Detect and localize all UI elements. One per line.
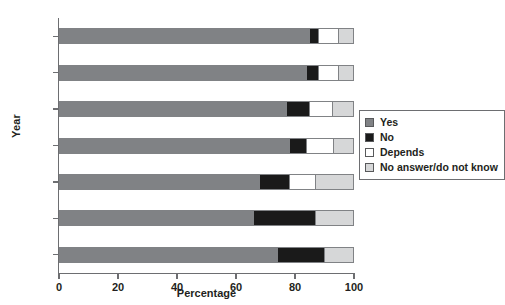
bar-segment — [286, 102, 309, 116]
bar-stack — [59, 210, 354, 226]
bar-stack — [59, 247, 354, 263]
legend-swatch-icon — [365, 163, 374, 172]
x-axis-line — [58, 273, 354, 274]
bar-segment — [309, 102, 332, 116]
bar-segment — [315, 175, 353, 189]
bar-stack — [59, 174, 354, 190]
x-axis-tick — [117, 273, 118, 279]
bar-stack — [59, 65, 354, 81]
bar-segment — [333, 139, 354, 153]
bar-segment — [289, 175, 315, 189]
x-axis-tick — [176, 273, 177, 279]
bar-segment — [60, 29, 309, 43]
legend: YesNoDependsNo answer/do not know — [359, 110, 505, 180]
legend-item[interactable]: No answer/do not know — [365, 160, 498, 175]
bar-stack — [59, 101, 354, 117]
bar-segment — [289, 139, 307, 153]
bar-segment — [60, 248, 277, 262]
bar-segment — [315, 211, 353, 225]
bar-segment — [318, 66, 339, 80]
legend-item-label: Yes — [380, 117, 398, 128]
legend-swatch-icon — [365, 133, 374, 142]
legend-item[interactable]: Depends — [365, 145, 498, 160]
bar-stack — [59, 138, 354, 154]
legend-item-label: No — [380, 132, 394, 143]
bar-segment — [338, 66, 353, 80]
plot-area: 0204060801002006200019951990198519801978 — [59, 18, 354, 273]
bar-segment — [60, 139, 289, 153]
bar-segment — [60, 102, 286, 116]
legend-swatch-icon — [365, 148, 374, 157]
bar-segment — [60, 175, 259, 189]
bar-segment — [277, 248, 324, 262]
bar-segment — [306, 139, 332, 153]
bar-segment — [309, 29, 318, 43]
legend-item-label: Depends — [380, 147, 424, 158]
x-axis-tick — [58, 273, 59, 279]
x-axis-tick — [294, 273, 295, 279]
y-axis-title: Year — [10, 96, 22, 156]
bar-segment — [332, 102, 353, 116]
x-axis-title: Percentage — [59, 287, 354, 299]
x-axis-tick — [235, 273, 236, 279]
bar-stack — [59, 28, 354, 44]
x-axis-tick — [353, 273, 354, 279]
legend-item[interactable]: No — [365, 130, 498, 145]
bar-segment — [259, 175, 288, 189]
legend-swatch-icon — [365, 118, 374, 127]
bar-segment — [60, 211, 253, 225]
bar-segment — [324, 248, 353, 262]
bar-segment — [338, 29, 353, 43]
bar-segment — [318, 29, 339, 43]
bar-segment — [306, 66, 318, 80]
bar-segment — [253, 211, 315, 225]
legend-item[interactable]: Yes — [365, 115, 498, 130]
bar-segment — [60, 66, 306, 80]
legend-item-label: No answer/do not know — [380, 162, 498, 173]
